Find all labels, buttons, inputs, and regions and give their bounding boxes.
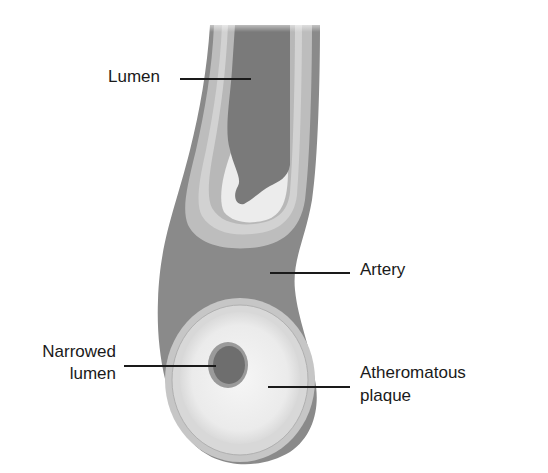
leader-plaque	[268, 386, 350, 388]
label-plaque-2: plaque	[360, 386, 411, 406]
label-narrowed-lumen-2: lumen	[22, 364, 116, 384]
label-narrowed-lumen-1: Narrowed	[22, 342, 116, 362]
artery-illustration	[0, 0, 548, 473]
label-artery: Artery	[360, 260, 405, 280]
leader-lumen	[180, 78, 251, 80]
leader-narrowed-lumen	[124, 365, 216, 367]
leader-artery	[270, 272, 350, 274]
label-plaque-1: Atheromatous	[360, 363, 466, 383]
narrowed-lumen	[213, 346, 245, 384]
label-lumen: Lumen	[108, 67, 160, 87]
artery-diagram: Lumen Artery Narrowed lumen Atheromatous…	[0, 0, 548, 473]
